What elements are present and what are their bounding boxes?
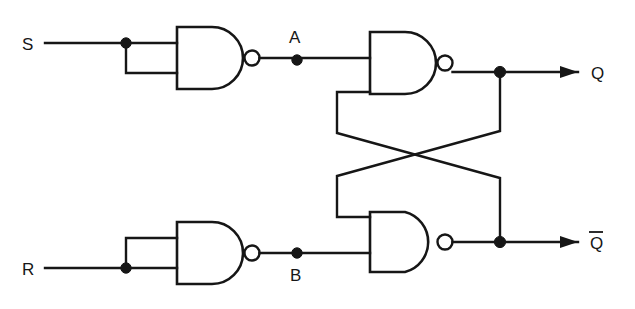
- net-s-wiring: [45, 38, 177, 73]
- gate-s-inverter-body: [177, 27, 243, 89]
- label-output-qbar: Q: [590, 234, 603, 253]
- gate-q: [370, 32, 453, 94]
- junction-s-split: [121, 38, 131, 48]
- gate-q-body: [370, 32, 436, 94]
- gate-r-inverter-body: [177, 222, 243, 284]
- net-a-wiring: [260, 55, 371, 65]
- gate-q-bubble: [438, 56, 453, 71]
- logic-diagram-canvas: S A R B Q Q: [0, 0, 635, 309]
- label-node-b: B: [290, 266, 301, 285]
- junction-node-b: [292, 248, 302, 258]
- sr-latch-schematic: S A R B Q Q: [0, 0, 635, 309]
- junction-r-split: [121, 263, 131, 273]
- arrowhead-q: [560, 66, 578, 78]
- label-output-q: Q: [591, 64, 604, 83]
- net-qbar-output: [453, 236, 579, 248]
- gate-s-inverter: [177, 27, 260, 89]
- net-q-output: [453, 66, 579, 78]
- net-b-wiring: [260, 248, 371, 258]
- gate-r-inverter-bubble: [245, 246, 260, 261]
- label-input-s: S: [22, 35, 33, 54]
- wire-q-feedback: [337, 72, 500, 217]
- feedback-q-to-gate-qbar: [337, 72, 500, 217]
- junction-node-a: [292, 55, 302, 65]
- wire-r-branch-to-input1: [126, 238, 177, 268]
- label-input-r: R: [22, 260, 34, 279]
- gate-qbar: [370, 212, 453, 272]
- label-node-a: A: [289, 28, 301, 47]
- gate-r-inverter: [177, 222, 260, 284]
- net-r-wiring: [45, 238, 177, 273]
- gate-qbar-bubble: [438, 235, 453, 250]
- gate-qbar-body: [370, 212, 428, 272]
- gate-s-inverter-bubble: [245, 51, 260, 66]
- wire-s-branch-to-input2: [126, 43, 177, 73]
- label-output-qbar-group: Q: [589, 232, 603, 253]
- arrowhead-qbar: [560, 236, 578, 248]
